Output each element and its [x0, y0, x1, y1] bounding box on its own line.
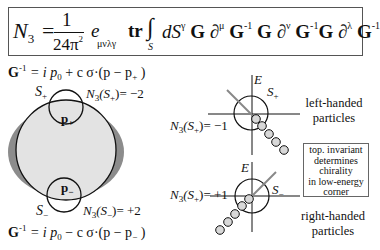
label-n3-right-handed: N3(S+)= +1: [170, 187, 228, 204]
branch-line-top: [227, 90, 252, 115]
energy-axis-label-bottom: E: [241, 160, 249, 176]
label-s-plus-spectrum: S+: [267, 84, 279, 101]
green-function-minus: G-1 = i p0 − c σ·(p − p− ): [8, 223, 145, 242]
label-s-plus: S+: [35, 84, 47, 101]
left-handed-branch-dots: [252, 115, 289, 155]
energy-axis-label-top: E: [254, 72, 262, 88]
label-n3-s-plus: N3(S+)= −2: [86, 86, 144, 103]
right-handed-caption: right-handed particles: [293, 209, 373, 239]
label-p-minus: p−: [61, 180, 73, 197]
left-handed-caption: left-handed particles: [298, 96, 370, 126]
label-n3-s-minus: N3(S−)= +2: [83, 203, 141, 220]
chirality-note-box: top. invariant determines chirality in l…: [303, 143, 369, 197]
label-s-minus: S−: [36, 203, 48, 220]
label-s-minus-spectrum: S−: [272, 182, 284, 199]
label-n3-left-handed: N3(S+)= −1: [170, 118, 228, 135]
label-p-plus: p+: [61, 111, 73, 128]
